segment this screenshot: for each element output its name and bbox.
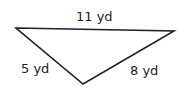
right-side-label: 8 yd	[130, 64, 158, 77]
left-side-label: 5 yd	[21, 62, 49, 75]
top-side-label: 11 yd	[76, 10, 113, 23]
triangle-diagram: 11 yd 5 yd 8 yd	[0, 0, 184, 94]
